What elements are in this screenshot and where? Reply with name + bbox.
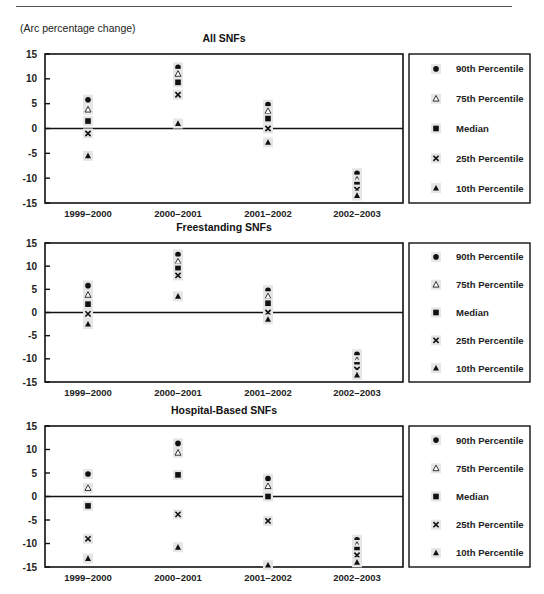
square-marker-icon <box>265 494 271 500</box>
x-category-label: 2002–2003 <box>333 572 381 583</box>
y-tick-label: -10 <box>23 538 38 549</box>
y-tick-label: 15 <box>26 421 38 432</box>
y-tick-label: -15 <box>23 562 38 573</box>
circle-marker-icon <box>85 471 91 477</box>
square-marker-icon <box>433 494 439 500</box>
y-tick-label: -5 <box>28 515 37 526</box>
y-tick-label: 5 <box>31 468 37 479</box>
scatter-plot: 151050-5-10-151999–20002000–20012001–200… <box>0 0 544 594</box>
x-category-label: 2001–2002 <box>244 572 292 583</box>
legend-item-label: 75th Percentile <box>456 463 524 474</box>
circle-marker-icon <box>433 437 439 443</box>
legend-item-label: 25th Percentile <box>456 519 524 530</box>
square-marker-icon <box>175 472 181 478</box>
y-tick-label: 0 <box>31 491 37 502</box>
x-category-label: 1999–2000 <box>64 572 112 583</box>
panel-hospital-based-snfs: Hospital-Based SNFs 151050-5-10-151999–2… <box>0 0 544 175</box>
square-marker-icon <box>85 503 91 509</box>
circle-marker-icon <box>175 441 181 447</box>
legend-item-label: 90th Percentile <box>456 435 524 446</box>
y-tick-label: 10 <box>26 444 38 455</box>
legend-item-label: Median <box>456 491 489 502</box>
legend-item-label: 10th Percentile <box>456 547 524 558</box>
x-category-label: 2000–2001 <box>154 572 202 583</box>
circle-marker-icon <box>265 476 271 482</box>
